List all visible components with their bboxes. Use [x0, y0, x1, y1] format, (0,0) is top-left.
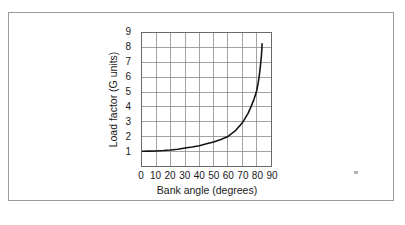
x-tick-label: 90: [263, 170, 281, 181]
screenshot-page: 9 8 7 6 5 4 3 2 1: [0, 0, 405, 225]
load-factor-curve: [142, 33, 271, 166]
x-axis-title: Bank angle (degrees): [133, 184, 281, 196]
plot-area: [141, 32, 272, 167]
chart-figure: 9 8 7 6 5 4 3 2 1: [0, 0, 405, 225]
x-axis-tick-labels: 0 10 20 30 40 50 60 70 80 90: [133, 170, 281, 182]
y-axis-title: Load factor (G units): [106, 32, 120, 167]
scan-artifact-speck: [354, 171, 358, 174]
